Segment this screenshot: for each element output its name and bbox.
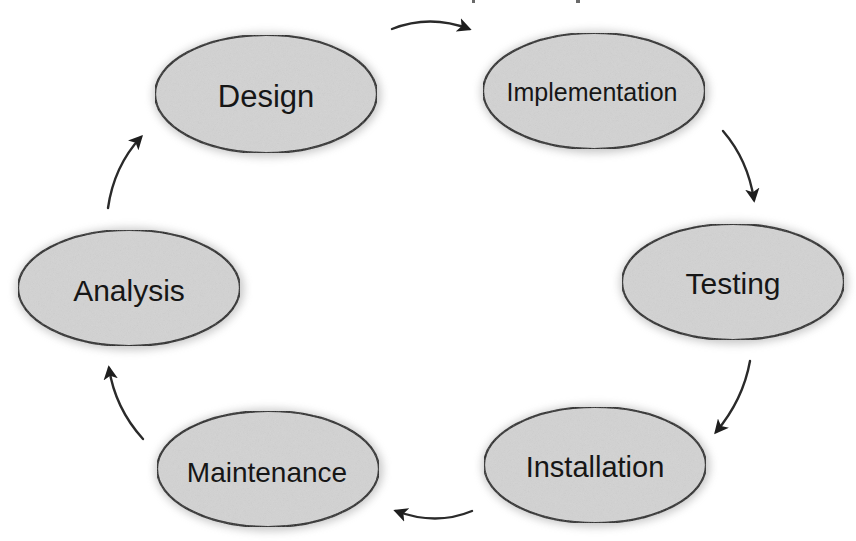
arrow-implementation-to-testing [723,131,754,200]
node-design-label: Design [218,79,315,114]
node-analysis-label: Analysis [73,274,185,307]
cropped-title-fragment [472,0,580,3]
arrow-design-to-implementation [392,22,469,30]
node-installation: Installation [482,405,710,527]
node-analysis: Analysis [16,228,244,350]
node-implementation: Implementation [481,31,709,153]
node-installation-label: Installation [526,451,665,483]
node-design: Design [153,33,381,157]
arrow-maintenance-to-analysis [109,368,143,439]
arrow-analysis-to-design [108,137,141,208]
arrow-installation-to-maintenance [396,511,472,519]
node-maintenance: Maintenance [155,409,383,531]
node-implementation-label: Implementation [507,78,678,106]
arrow-testing-to-installation [716,361,750,432]
node-testing-label: Testing [685,267,780,300]
node-maintenance-label: Maintenance [187,457,347,488]
lifecycle-cycle-diagram: Design Implementation Testing Installati… [0,0,856,541]
node-testing: Testing [620,222,848,344]
